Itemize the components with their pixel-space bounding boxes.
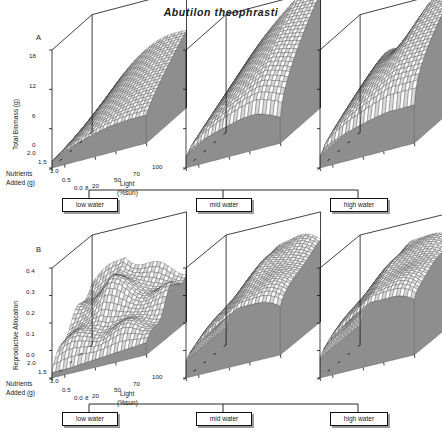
figure-root: Abutilon theophrasti A Total Biomass (g)… — [0, 0, 442, 444]
figure-vector-layer — [0, 0, 442, 444]
